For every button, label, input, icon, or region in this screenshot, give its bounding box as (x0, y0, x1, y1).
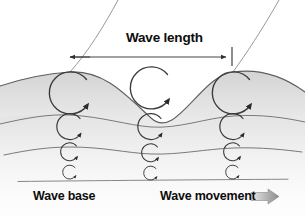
wave-movement-label: Wave movement (160, 189, 256, 203)
orbit-circle (130, 67, 168, 109)
wave-diagram-figure: Wave length Wave base Wave movement (0, 0, 305, 216)
wave-base-label: Wave base (33, 189, 95, 203)
wave-length-label: Wave length (126, 30, 203, 45)
wave-length-measure (70, 47, 232, 66)
